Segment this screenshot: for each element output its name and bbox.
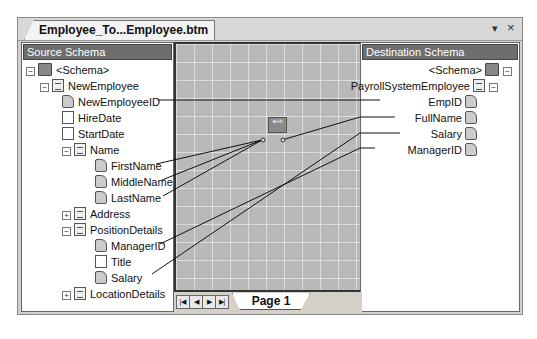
dest-node-managerid[interactable]: ManagerID	[408, 142, 481, 158]
source-node-positiondetails[interactable]: −PositionDetails	[62, 222, 163, 238]
folder-icon	[38, 63, 52, 76]
collapse-icon[interactable]: −	[40, 83, 49, 92]
field-icon	[95, 239, 107, 252]
source-node-newemployee[interactable]: −NewEmployee	[40, 78, 139, 94]
attribute-icon	[62, 111, 74, 124]
source-node-title[interactable]: Title	[95, 254, 131, 270]
source-node-address[interactable]: +Address	[62, 206, 130, 222]
source-node-lastname[interactable]: LastName	[95, 190, 161, 206]
field-icon	[95, 175, 107, 188]
next-page-button[interactable]: ▶	[202, 295, 216, 309]
source-node-newemployeeid[interactable]: NewEmployeeID	[62, 94, 160, 110]
field-icon	[95, 191, 107, 204]
collapse-icon[interactable]: −	[62, 147, 71, 156]
dropdown-icon[interactable]: ▾	[492, 22, 498, 35]
source-schema-header: Source Schema	[23, 44, 172, 60]
record-icon	[74, 207, 86, 220]
source-node-name[interactable]: −Name	[62, 142, 119, 158]
first-page-button[interactable]: |◀	[176, 295, 190, 309]
destination-schema-header: Destination Schema	[362, 44, 518, 60]
expand-icon[interactable]: +	[62, 291, 71, 300]
mapping-grid[interactable]: a+b	[174, 42, 362, 292]
source-node-managerid[interactable]: ManagerID	[95, 238, 165, 254]
document-tab[interactable]: Employee_To...Employee.btm	[24, 20, 215, 40]
dest-node-payrollsystememployee[interactable]: PayrollSystemEmployee −	[351, 78, 501, 94]
source-node-hiredate[interactable]: HireDate	[62, 110, 121, 126]
source-node-startdate[interactable]: StartDate	[62, 126, 124, 142]
close-icon[interactable]: ×	[507, 20, 515, 35]
record-icon	[52, 79, 64, 92]
last-page-button[interactable]: ▶|	[215, 295, 229, 309]
field-icon	[465, 111, 477, 124]
prev-page-button[interactable]: ◀	[189, 295, 203, 309]
source-node-schema[interactable]: −<Schema>	[26, 62, 109, 78]
dest-node-empid[interactable]: EmpID	[428, 94, 481, 110]
attribute-icon	[95, 255, 107, 268]
record-icon	[74, 223, 86, 236]
field-icon	[465, 127, 477, 140]
dest-node-schema[interactable]: <Schema> −	[429, 62, 515, 78]
field-icon	[62, 95, 74, 108]
field-icon	[465, 143, 477, 156]
source-node-firstname[interactable]: FirstName	[95, 158, 162, 174]
field-icon	[95, 159, 107, 172]
record-icon	[74, 287, 86, 300]
destination-schema-panel: Destination Schema <Schema> − PayrollSys…	[360, 42, 520, 312]
collapse-icon[interactable]: −	[489, 83, 498, 92]
mapper-window: Employee_To...Employee.btm ▾ × Source Sc…	[17, 17, 523, 315]
page-navigation-bar: |◀ ◀ ▶ ▶| Page 1	[174, 292, 362, 312]
source-node-salary[interactable]: Salary	[95, 270, 142, 286]
record-icon	[473, 79, 485, 92]
expand-icon[interactable]: +	[62, 211, 71, 220]
attribute-icon	[62, 127, 74, 140]
document-tab-bar: Employee_To...Employee.btm ▾ ×	[18, 18, 522, 41]
source-schema-panel: Source Schema −<Schema> −NewEmployee New…	[21, 42, 174, 312]
collapse-icon[interactable]: −	[26, 67, 35, 76]
field-icon	[95, 271, 107, 284]
dest-node-salary[interactable]: Salary	[431, 126, 481, 142]
source-node-middlename[interactable]: MiddleName	[95, 174, 173, 190]
field-icon	[465, 95, 477, 108]
collapse-icon[interactable]: −	[62, 227, 71, 236]
functoid[interactable]: a+b	[268, 117, 287, 133]
record-icon	[74, 143, 86, 156]
dest-node-fullname[interactable]: FullName	[415, 110, 481, 126]
source-node-locationdetails[interactable]: +LocationDetails	[62, 286, 165, 302]
page-tab[interactable]: Page 1	[232, 293, 310, 310]
folder-icon	[485, 63, 499, 76]
collapse-icon[interactable]: −	[503, 67, 512, 76]
